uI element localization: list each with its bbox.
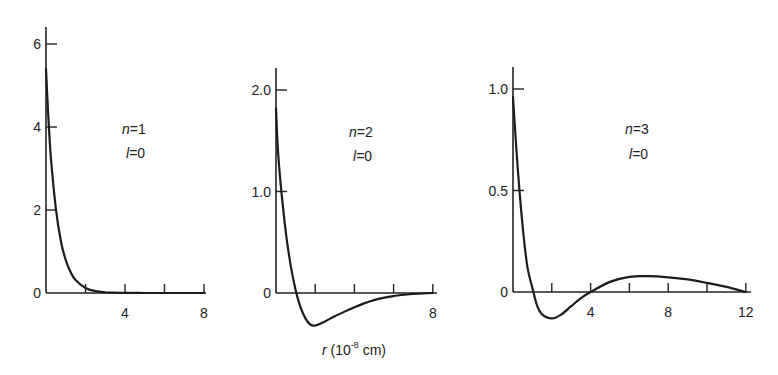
chart-n3-l0: 481200.51.0n=3l=0 (489, 67, 754, 320)
x-tick-label: 4 (121, 305, 129, 321)
y-tick-label: 0.5 (489, 183, 509, 199)
x-tick-label: 8 (200, 305, 208, 321)
chart-n2-l0: 801.02.0n=2l=0 (252, 68, 437, 326)
chart-n1-l0: 480246n=1l=0 (33, 27, 208, 321)
radial-wavefunction-figure: 480246n=1l=0 801.02.0n=2l=0 481200.51.0n… (0, 0, 778, 375)
shared-x-axis-label: r (10-8 cm) (322, 340, 386, 358)
y-tick-label: 0 (263, 285, 271, 301)
x-tick-label: 8 (664, 304, 672, 320)
x-tick-label: 8 (429, 305, 437, 321)
x-tick-label: 4 (587, 304, 595, 320)
wavefunction-curve (46, 69, 204, 293)
y-tick-label: 1.0 (252, 184, 272, 200)
y-tick-label: 6 (33, 36, 41, 52)
y-tick-label: 4 (33, 119, 41, 135)
y-tick-label: 1.0 (489, 81, 509, 97)
y-tick-label: 0 (500, 284, 508, 300)
quantum-number-l-label: l=0 (629, 146, 648, 162)
quantum-number-l-label: l=0 (126, 145, 145, 161)
quantum-number-n-label: n=1 (122, 121, 146, 137)
y-tick-label: 2.0 (252, 82, 272, 98)
quantum-number-n-label: n=2 (349, 124, 373, 140)
x-tick-label: 12 (738, 304, 754, 320)
quantum-number-l-label: l=0 (353, 148, 372, 164)
quantum-number-n-label: n=3 (625, 121, 649, 137)
y-tick-label: 2 (33, 202, 41, 218)
y-tick-label: 0 (33, 285, 41, 301)
